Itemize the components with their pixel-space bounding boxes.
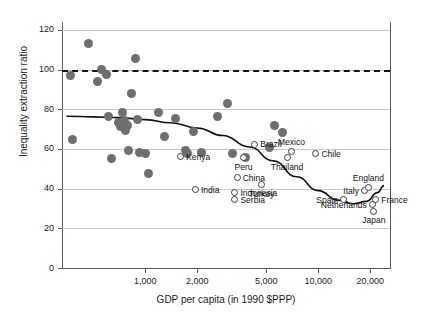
data-point xyxy=(107,154,116,163)
y-axis-line xyxy=(62,22,63,269)
point-label-england: England xyxy=(353,174,384,183)
point-label-turkey: Turkey xyxy=(249,190,275,199)
x-tick-label-1000: 1,000 xyxy=(134,277,157,286)
y-tick-label-100: 100 xyxy=(28,65,54,74)
data-point-india xyxy=(192,186,199,193)
x-tick-mark-1000 xyxy=(145,269,146,273)
data-point-england xyxy=(365,184,372,191)
point-label-chile: Chile xyxy=(321,149,340,158)
data-point xyxy=(278,128,287,137)
x-tick-label-5000: 5,000 xyxy=(255,277,278,286)
x-tick-mark-20000 xyxy=(370,269,371,273)
data-point-france xyxy=(372,196,379,203)
data-point xyxy=(141,149,150,158)
x-tick-label-10000: 10,000 xyxy=(304,277,332,286)
point-label-netherlands: Netherlands xyxy=(321,200,367,209)
data-point-china xyxy=(234,174,241,181)
data-point xyxy=(144,169,153,178)
x-tick-mark-10000 xyxy=(318,269,319,273)
reference-line-100 xyxy=(62,70,390,72)
data-point xyxy=(66,71,75,80)
y-tick-mark-80 xyxy=(58,109,62,110)
data-point xyxy=(127,89,136,98)
gridline-20 xyxy=(62,228,390,229)
y-tick-mark-120 xyxy=(58,30,62,31)
data-point xyxy=(104,112,113,121)
point-label-mexico: Mexico xyxy=(278,138,305,147)
y-axis-title: Inequality extraction ratio xyxy=(18,27,29,177)
point-label-india: India xyxy=(201,185,219,194)
data-point xyxy=(68,135,77,144)
x-axis-line xyxy=(62,268,391,269)
data-point xyxy=(123,121,132,130)
point-label-france: France xyxy=(381,195,407,204)
y-tick-mark-0 xyxy=(58,268,62,269)
data-point xyxy=(133,115,142,124)
data-point-kenya xyxy=(177,153,184,160)
point-label-thailand: Thailand xyxy=(271,163,304,172)
y-tick-label-20: 20 xyxy=(28,224,54,233)
x-tick-label-2000: 2,000 xyxy=(186,277,209,286)
y-tick-label-40: 40 xyxy=(28,184,54,193)
y-tick-label-60: 60 xyxy=(28,144,54,153)
data-point xyxy=(270,121,279,130)
data-point xyxy=(124,146,133,155)
x-tick-mark-5000 xyxy=(266,269,267,273)
x-axis-title: GDP per capita (in 1990 $PPP) xyxy=(62,294,390,305)
data-point xyxy=(213,112,222,121)
data-point xyxy=(93,77,102,86)
x-tick-mark-2000 xyxy=(197,269,198,273)
data-point xyxy=(160,132,169,141)
y-tick-label-80: 80 xyxy=(28,105,54,114)
plot-right-border xyxy=(390,22,391,269)
data-point xyxy=(131,54,140,63)
y-tick-mark-40 xyxy=(58,189,62,190)
data-point-mexico xyxy=(288,148,295,155)
data-point xyxy=(102,70,111,79)
point-label-peru: Peru xyxy=(235,163,253,172)
data-point-japan xyxy=(370,208,377,215)
y-tick-mark-60 xyxy=(58,149,62,150)
x-tick-label-20000: 20,000 xyxy=(357,277,385,286)
gridline-80 xyxy=(62,109,390,110)
data-point-indonesia xyxy=(231,189,238,196)
data-point-brazil xyxy=(251,141,258,148)
data-point xyxy=(171,114,180,123)
y-tick-label-120: 120 xyxy=(28,25,54,34)
point-label-japan: Japan xyxy=(362,216,385,225)
data-point-serbia xyxy=(231,196,238,203)
data-point xyxy=(223,99,232,108)
data-point xyxy=(84,39,93,48)
gridline-120 xyxy=(62,30,390,31)
data-point-thailand xyxy=(284,154,291,161)
y-tick-mark-20 xyxy=(58,228,62,229)
y-tick-label-0: 0 xyxy=(28,264,54,273)
data-point-chile xyxy=(312,150,319,157)
gridline-40 xyxy=(62,189,390,190)
point-label-italy: Italy xyxy=(343,186,359,195)
data-point xyxy=(154,108,163,117)
data-point xyxy=(189,127,198,136)
inequality-extraction-ratio-chart: 020406080100120 1,0002,0005,00010,00020,… xyxy=(0,0,444,316)
point-label-kenya: Kenya xyxy=(186,152,210,161)
data-point xyxy=(228,149,237,158)
